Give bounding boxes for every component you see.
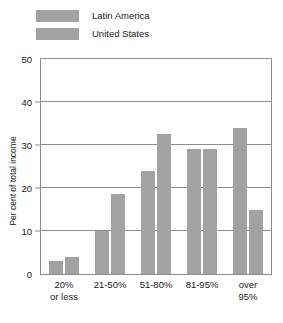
bar	[233, 128, 247, 274]
bar	[111, 194, 125, 274]
bar	[157, 134, 171, 274]
y-tick-label-40: 40	[21, 98, 32, 108]
y-axis-title: Per cent of total income	[8, 121, 18, 241]
x-axis-label: 51-80%	[130, 279, 182, 291]
bar	[203, 149, 217, 274]
x-axis-label-line: 95%	[222, 291, 274, 303]
x-axis-label: 20%or less	[38, 279, 90, 302]
legend-swatch-united-states	[36, 28, 79, 40]
bar	[187, 149, 201, 274]
bar	[249, 210, 263, 275]
x-axis-label-line: or less	[38, 291, 90, 303]
x-axis-labels: 20%or less21-50%51-80%81-95%over95%	[41, 279, 271, 319]
chart-legend: Latin America United States	[36, 8, 236, 44]
legend-label-latin-america: Latin America	[92, 10, 150, 22]
legend-item-united-states: United States	[36, 26, 236, 41]
bar	[65, 257, 79, 274]
x-axis-label-line: 51-80%	[130, 279, 182, 291]
y-tick-label-10: 10	[21, 227, 32, 237]
y-tick-label-50: 50	[21, 55, 32, 65]
y-axis: Per cent of total income 01020304050	[0, 58, 40, 275]
bar-group	[49, 59, 79, 274]
bar-group	[187, 59, 217, 274]
legend-swatch-latin-america	[36, 10, 79, 22]
x-axis-label: 21-50%	[84, 279, 136, 291]
bar	[95, 231, 109, 274]
legend-item-latin-america: Latin America	[36, 8, 236, 23]
y-tick-label-20: 20	[21, 184, 32, 194]
x-axis-label-line: 81-95%	[176, 279, 228, 291]
x-axis-label: 81-95%	[176, 279, 228, 291]
x-axis-label-line: 20%	[38, 279, 90, 291]
x-axis-label-line: over	[222, 279, 274, 291]
legend-label-united-states: United States	[92, 28, 149, 40]
y-tick-label-30: 30	[21, 141, 32, 151]
bars-layer	[41, 59, 271, 274]
bar	[141, 171, 155, 274]
y-tick-label-0: 0	[27, 270, 32, 280]
bar-chart: Latin America United States Per cent of …	[0, 0, 283, 323]
x-axis-label-line: 21-50%	[84, 279, 136, 291]
bar	[49, 261, 63, 274]
bar-group	[95, 59, 125, 274]
bar-group	[233, 59, 263, 274]
x-axis-label: over95%	[222, 279, 274, 302]
bar-group	[141, 59, 171, 274]
